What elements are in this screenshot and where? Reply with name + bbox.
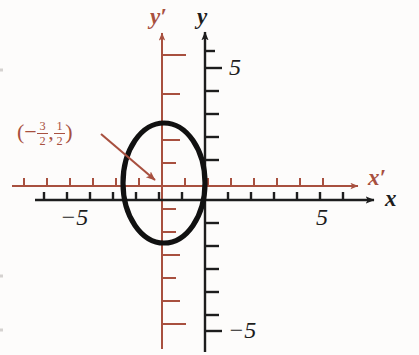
point-label-y-denominator: 2 xyxy=(54,133,65,148)
y-prime-axis-label: y′ xyxy=(150,5,167,28)
y-axis-label: y xyxy=(197,5,207,28)
new-origin-point-label: (−32,12) xyxy=(17,120,73,148)
point-label-comma: , xyxy=(48,119,54,144)
primed-axes-group xyxy=(12,33,358,349)
coordinate-plane-svg xyxy=(0,0,419,355)
x-axis-tick-label-5: 5 xyxy=(316,205,328,229)
y-axis-tick-label-5: 5 xyxy=(229,55,241,79)
point-label-y-numerator: 1 xyxy=(54,120,65,133)
page-edge-artifacts xyxy=(0,70,3,330)
x-prime-axis-label: x′ xyxy=(368,166,386,189)
point-label-close-paren: ) xyxy=(65,119,72,144)
point-label-x-numerator: 3 xyxy=(37,120,48,133)
annotation-arrow xyxy=(101,134,155,180)
y-axis-ticks xyxy=(205,51,222,331)
y-axis-tick-label-neg5: −5 xyxy=(228,318,256,342)
point-label-minus-sign: − xyxy=(24,119,36,144)
y-prime-axis-ticks xyxy=(162,55,186,324)
x-axis-label: x xyxy=(385,187,397,210)
x-prime-axis-ticks xyxy=(24,178,323,186)
x-axis-tick-label-neg5: −5 xyxy=(60,205,88,229)
point-label-y-fraction: 12 xyxy=(54,120,65,148)
point-label-x-fraction: 32 xyxy=(37,120,48,148)
point-label-x-denominator: 2 xyxy=(37,133,48,148)
math-figure: y′ y x′ x 5 −5 −5 5 (−32,12) xyxy=(0,0,419,355)
